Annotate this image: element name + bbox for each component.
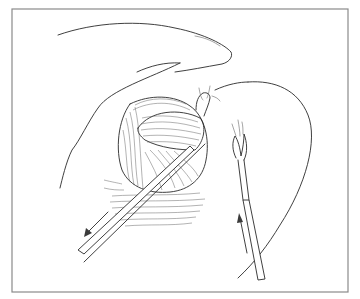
tissue-mass <box>104 97 207 226</box>
figure-frame <box>12 9 348 292</box>
surgical-illustration <box>0 0 360 299</box>
vessel-stump <box>196 86 220 116</box>
illustration-canvas <box>0 0 360 299</box>
right-instrument <box>232 120 265 280</box>
body-contour <box>60 63 312 278</box>
skin-flap <box>58 23 232 72</box>
right-arrow-icon <box>237 213 247 253</box>
